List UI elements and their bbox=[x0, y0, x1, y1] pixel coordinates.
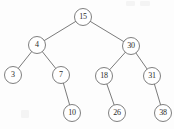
node-label-30: 30 bbox=[127, 41, 135, 50]
tree-node-layer: 15430371831102638 bbox=[5, 9, 172, 122]
node-label-18: 18 bbox=[100, 71, 108, 80]
tree-edge-18-26 bbox=[107, 84, 114, 105]
node-label-7: 7 bbox=[59, 70, 63, 79]
node-label-26: 26 bbox=[113, 108, 121, 117]
node-label-10: 10 bbox=[68, 108, 76, 117]
tree-node-4: 4 bbox=[29, 37, 46, 54]
node-label-15: 15 bbox=[79, 12, 87, 21]
tree-node-3: 3 bbox=[5, 67, 22, 84]
tree-edge-7-10 bbox=[63, 83, 69, 105]
tree-edge-4-7 bbox=[42, 52, 55, 69]
tree-canvas: 15430371831102638 bbox=[0, 0, 174, 129]
node-label-31: 31 bbox=[148, 71, 156, 80]
tree-edge-30-18 bbox=[110, 52, 126, 69]
tree-edge-15-4 bbox=[44, 21, 75, 40]
tree-edge-30-31 bbox=[136, 53, 147, 69]
node-label-38: 38 bbox=[159, 108, 167, 117]
tree-node-38: 38 bbox=[155, 105, 172, 122]
tree-edge-15-30 bbox=[90, 21, 123, 41]
tree-node-10: 10 bbox=[64, 105, 81, 122]
tree-node-30: 30 bbox=[123, 38, 140, 55]
tree-node-15: 15 bbox=[75, 9, 92, 26]
tree-node-7: 7 bbox=[53, 67, 70, 84]
tree-edge-4-3 bbox=[18, 52, 31, 69]
binary-tree-diagram: 15430371831102638 bbox=[0, 0, 174, 129]
tree-edge-layer bbox=[18, 21, 160, 105]
tree-node-18: 18 bbox=[96, 68, 113, 85]
tree-node-26: 26 bbox=[109, 105, 126, 122]
node-label-4: 4 bbox=[35, 40, 39, 49]
tree-node-31: 31 bbox=[144, 68, 161, 85]
node-label-3: 3 bbox=[11, 70, 15, 79]
tree-edge-31-38 bbox=[154, 84, 160, 105]
